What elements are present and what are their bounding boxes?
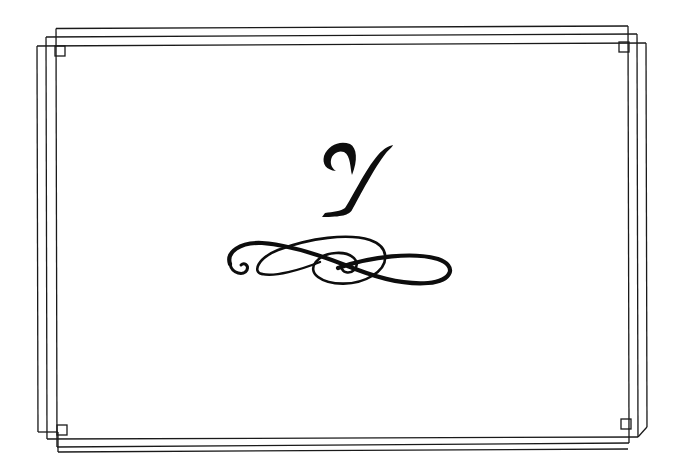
frame-rect-3 xyxy=(37,43,647,452)
flourish-scroll-icon xyxy=(229,237,450,284)
decorative-frame xyxy=(0,0,680,475)
monogram-letter-icon xyxy=(322,143,393,217)
